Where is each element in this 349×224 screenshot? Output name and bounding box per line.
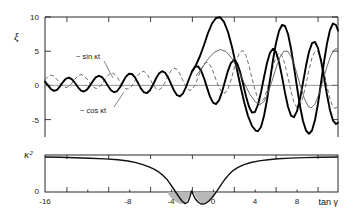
upper-ytick-0: 0 — [35, 81, 40, 90]
cos-annotation-label: − cos κt — [80, 106, 107, 115]
xtick-label-minus8: -8 — [124, 197, 132, 206]
figure-root: 10 5 0 -5 ξ − sin κt − cos κt — [0, 0, 349, 224]
cos-annotation: − cos κt — [80, 92, 124, 115]
figure-svg: 10 5 0 -5 ξ − sin κt − cos κt — [0, 0, 349, 224]
xaxis-label: tan γ — [318, 197, 338, 207]
upper-panel-frame — [45, 17, 338, 137]
lower-panel: κ² 0 -16 -8 -4 0 4 8 tan γ — [24, 148, 338, 207]
lower-panel-frame — [45, 155, 338, 192]
cos-annotation-leader — [114, 92, 124, 107]
xtick-label-0: 0 — [211, 197, 216, 206]
lower-ytick-0: 0 — [35, 187, 40, 196]
sin-annotation: − sin κt — [76, 52, 113, 78]
upper-left-ticks — [45, 17, 51, 120]
sin-annotation-leader — [104, 61, 113, 78]
upper-panel: 10 5 0 -5 ξ − sin κt − cos κt — [14, 13, 338, 137]
xtick-label-minus4: -4 — [167, 197, 175, 206]
upper-yaxis-label: ξ — [14, 30, 19, 43]
xtick-label-4: 4 — [253, 197, 258, 206]
sin-annotation-label: − sin κt — [76, 52, 101, 61]
upper-ytick-10: 10 — [30, 13, 39, 22]
upper-right-ticks — [332, 17, 338, 120]
upper-ytick-minus5: -5 — [32, 116, 40, 125]
xtick-label-8: 8 — [295, 197, 300, 206]
lower-bottom-ticks — [67, 187, 318, 192]
lower-yaxis-label: κ² — [24, 148, 33, 160]
xtick-label-minus16: -16 — [39, 197, 51, 206]
upper-top-ticks — [67, 17, 318, 22]
upper-ytick-5: 5 — [35, 47, 40, 56]
